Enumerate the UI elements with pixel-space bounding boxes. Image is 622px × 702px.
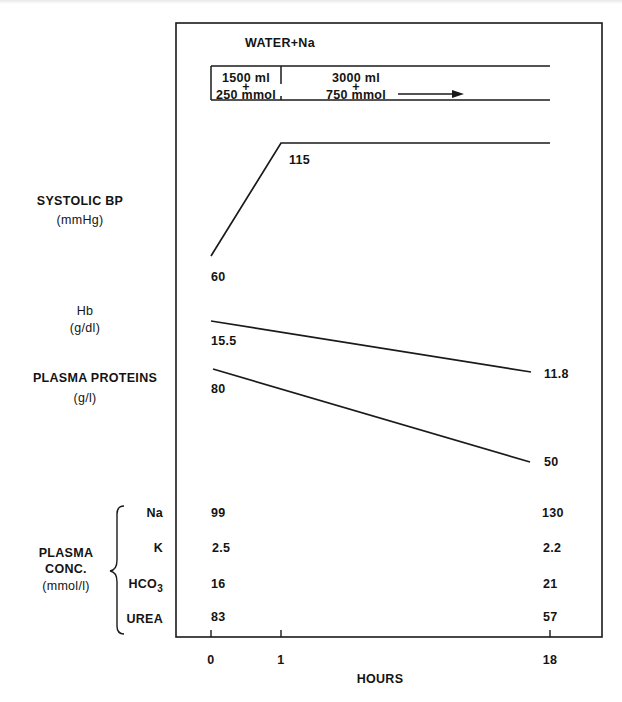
phase1-sodium: 250 mmol bbox=[210, 88, 282, 102]
series-hb bbox=[211, 321, 531, 372]
label-hb-unit: (g/dl) bbox=[40, 321, 130, 335]
x-tick-label-18: 18 bbox=[538, 653, 562, 667]
label-hb: Hb bbox=[40, 304, 130, 318]
x-tick-label-0: 0 bbox=[201, 653, 221, 667]
na-t0: 99 bbox=[211, 506, 226, 520]
na-t18: 130 bbox=[542, 506, 564, 520]
chart-plot bbox=[0, 0, 622, 702]
k-t0: 2.5 bbox=[212, 541, 230, 555]
series-plasma-proteins bbox=[213, 369, 530, 462]
row-label-na: Na bbox=[120, 506, 163, 520]
bp-peak-value: 115 bbox=[289, 153, 310, 167]
bp-start-value: 60 bbox=[211, 270, 226, 284]
phase2-sodium: 750 mmol bbox=[316, 88, 396, 102]
plasma-conc-label-2: CONC. bbox=[26, 562, 106, 576]
label-plasma-proteins: PLASMA PROTEINS bbox=[20, 371, 170, 385]
pp-end-value: 50 bbox=[544, 455, 559, 469]
k-t18: 2.2 bbox=[543, 541, 561, 555]
urea-t0: 83 bbox=[211, 610, 226, 624]
hco3-t0: 16 bbox=[211, 577, 226, 591]
hb-end-value: 11.8 bbox=[544, 367, 569, 381]
urea-t18: 57 bbox=[543, 610, 558, 624]
hco3-t18: 21 bbox=[543, 577, 558, 591]
row-label-k: K bbox=[120, 541, 163, 555]
label-systolic-bp: SYSTOLIC BP bbox=[20, 194, 140, 208]
x-tick-label-1: 1 bbox=[271, 653, 291, 667]
series-systolic-bp bbox=[211, 143, 550, 256]
chart-frame bbox=[176, 23, 602, 637]
pp-start-value: 80 bbox=[211, 382, 226, 396]
plasma-conc-label-3: (mmol/l) bbox=[26, 579, 106, 593]
plasma-conc-label-1: PLASMA bbox=[26, 546, 106, 560]
label-plasma-proteins-unit: (g/l) bbox=[40, 391, 130, 405]
label-systolic-bp-unit: (mmHg) bbox=[20, 213, 140, 227]
hb-start-value: 15.5 bbox=[211, 334, 237, 348]
row-label-hco3: HCO3 bbox=[120, 577, 163, 596]
row-label-urea: UREA bbox=[120, 612, 163, 626]
infusion-header: WATER+Na bbox=[245, 36, 315, 50]
x-axis-label: HOURS bbox=[340, 672, 420, 686]
